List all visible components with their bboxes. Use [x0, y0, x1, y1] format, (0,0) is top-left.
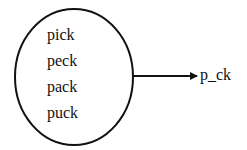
- set-item-pack: pack: [47, 78, 77, 96]
- set-item-puck: puck: [47, 104, 78, 122]
- set-item-peck: peck: [47, 52, 77, 70]
- pattern-label: p_ck: [200, 66, 231, 84]
- set-item-pick: pick: [47, 26, 75, 44]
- diagram-canvas: pick peck pack puck p_ck: [0, 0, 247, 150]
